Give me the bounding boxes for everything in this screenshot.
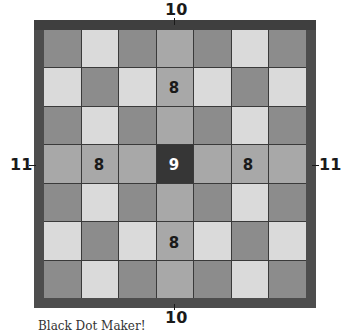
light-square [232, 107, 269, 144]
light-square [82, 184, 119, 221]
bottom-tick [174, 304, 175, 310]
board-top-edge [34, 20, 316, 30]
light-square [82, 261, 119, 298]
dark-square [119, 107, 156, 144]
left-tick [29, 165, 36, 166]
dark-square [194, 30, 231, 67]
dark-square [269, 261, 306, 298]
band-square [44, 145, 81, 182]
light-square [269, 222, 306, 259]
dark-square [194, 107, 231, 144]
dark-square [44, 107, 81, 144]
dark-square [82, 222, 119, 259]
dark-square [194, 261, 231, 298]
dark-square [232, 68, 269, 105]
band-square [157, 184, 194, 221]
dark-square [194, 184, 231, 221]
dark-square [44, 30, 81, 67]
band-square [157, 107, 194, 144]
bottom-band-number: 8 [169, 234, 179, 252]
light-square [82, 107, 119, 144]
dark-square [269, 184, 306, 221]
top-band-number: 8 [169, 79, 179, 97]
light-square [194, 68, 231, 105]
light-square [232, 261, 269, 298]
band-square [157, 261, 194, 298]
light-square [119, 68, 156, 105]
light-square [119, 222, 156, 259]
band-square [119, 145, 156, 182]
light-square [232, 184, 269, 221]
top-tick [174, 18, 175, 25]
dark-square [119, 184, 156, 221]
center-number: 9 [169, 156, 179, 174]
dark-square [44, 184, 81, 221]
top-edge-label: 10 [165, 0, 187, 19]
light-square [44, 68, 81, 105]
right-tick [312, 165, 319, 166]
band-square [157, 30, 194, 67]
dark-square [82, 68, 119, 105]
band-square [269, 145, 306, 182]
light-square [44, 222, 81, 259]
right-band-number: 8 [243, 156, 253, 174]
light-square [232, 30, 269, 67]
band-square [194, 145, 231, 182]
light-square [194, 222, 231, 259]
dark-square [269, 107, 306, 144]
dark-square [119, 261, 156, 298]
caption-text: Black Dot Maker! [38, 319, 145, 333]
bottom-edge-label: 10 [165, 308, 187, 327]
dark-square [269, 30, 306, 67]
dark-square [119, 30, 156, 67]
light-square [82, 30, 119, 67]
left-band-number: 8 [94, 156, 104, 174]
dark-square [232, 222, 269, 259]
dark-square [44, 261, 81, 298]
right-edge-label: 11 [319, 155, 341, 174]
light-square [269, 68, 306, 105]
